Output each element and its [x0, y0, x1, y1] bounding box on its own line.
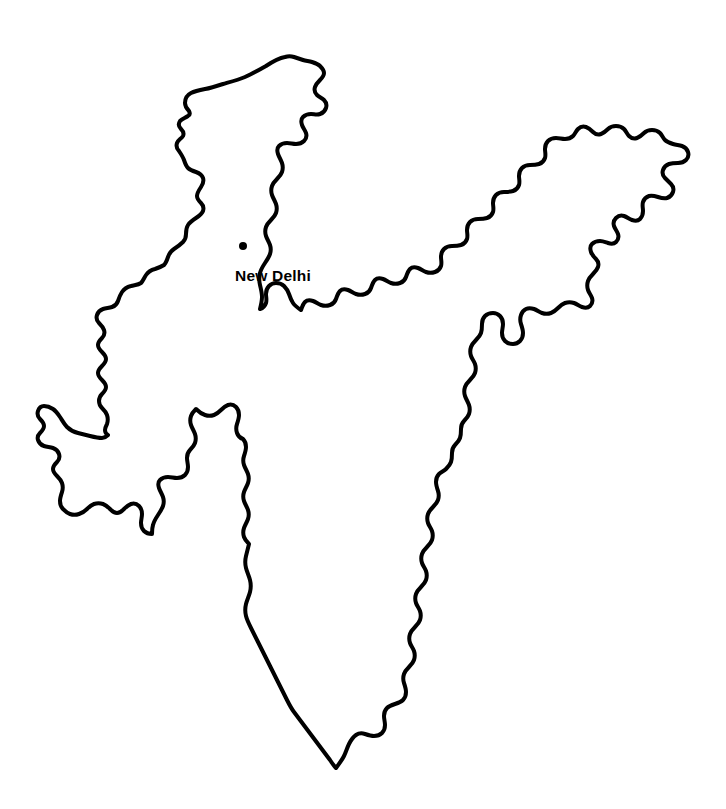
map-canvas: New Delhi [0, 0, 726, 809]
india-outline-map: New Delhi [0, 0, 726, 809]
country-outline-path [38, 56, 689, 768]
capital-marker-new-delhi [239, 242, 247, 250]
capital-label-new-delhi: New Delhi [235, 267, 311, 284]
